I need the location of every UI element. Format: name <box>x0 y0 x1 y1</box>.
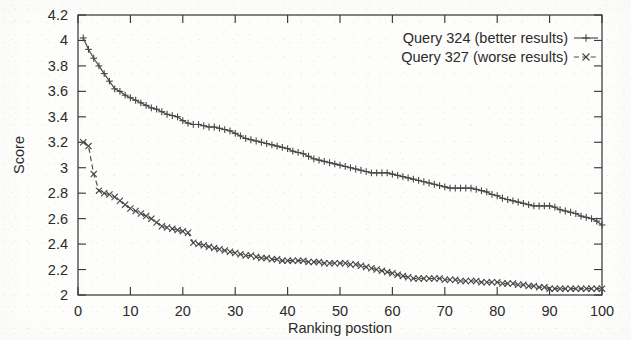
x-tick-label: 40 <box>280 303 296 319</box>
y-tick-label: 2.6 <box>48 211 68 227</box>
x-tick-label: 100 <box>590 303 614 319</box>
series-line <box>83 38 602 225</box>
y-tick-label: 4 <box>60 32 68 48</box>
y-tick-label: 3.8 <box>48 58 68 74</box>
y-axis-title: Score <box>11 136 27 174</box>
x-tick-label: 0 <box>74 303 82 319</box>
x-tick-label: 70 <box>437 303 453 319</box>
series-markers <box>80 139 605 292</box>
y-tick-label: 2.2 <box>48 262 68 278</box>
y-tick-label: 2.8 <box>48 185 68 201</box>
chart-figure: 22.22.42.62.833.23.43.63.844.2 010203040… <box>0 0 631 340</box>
legend-label: Query 324 (better results) <box>403 30 568 46</box>
y-tick-label: 3.6 <box>48 83 68 99</box>
x-tick-label: 80 <box>489 303 505 319</box>
data-series <box>80 139 605 292</box>
y-tick-label: 4.2 <box>48 7 68 23</box>
x-tick-label: 30 <box>227 303 243 319</box>
legend-label: Query 327 (worse results) <box>401 49 568 65</box>
x-tick-label: 10 <box>122 303 138 319</box>
y-tick-label: 2.4 <box>48 236 68 252</box>
line-chart: 22.22.42.62.833.23.43.63.844.2 010203040… <box>0 0 631 340</box>
x-tick-label: 90 <box>542 303 558 319</box>
y-tick-label: 3 <box>60 160 68 176</box>
chart-legend: Query 324 (better results)Query 327 (wor… <box>401 30 598 65</box>
series-layer <box>80 35 606 292</box>
x-tick-label: 20 <box>175 303 191 319</box>
x-tick-label: 50 <box>332 303 348 319</box>
series-line <box>83 142 602 288</box>
y-tick-label: 3.2 <box>48 134 68 150</box>
x-tick-label: 60 <box>384 303 400 319</box>
x-axis-title: Ranking postion <box>288 320 392 336</box>
y-tick-label: 3.4 <box>48 109 68 125</box>
y-tick-label: 2 <box>60 287 68 303</box>
